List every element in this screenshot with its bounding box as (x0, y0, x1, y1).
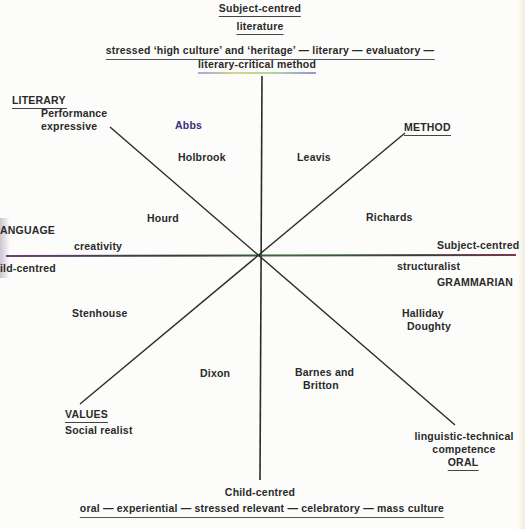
name-abbs: Abbs (175, 119, 202, 132)
name-leavis: Leavis (297, 151, 331, 164)
corner-desc-linguistic-technical: linguistic-technical (414, 430, 513, 443)
corner-label-method: METHOD (404, 121, 451, 136)
name-hourd: Hourd (147, 212, 179, 225)
top-method-label: literary-critical method (198, 58, 316, 74)
corner-desc-performance: Performance (41, 107, 107, 120)
name-doughty: Doughty (407, 320, 451, 333)
left-pole-child-centred: ild-centred (0, 262, 56, 275)
corner-label-oral: ORAL (448, 456, 479, 471)
corner-desc-social-realist: Social realist (65, 424, 133, 437)
name-barnes: Barnes and (295, 366, 354, 379)
corner-label-values: VALUES (65, 408, 108, 423)
diagonal-ne-sw (80, 133, 405, 404)
top-title-literature: literature (237, 20, 284, 35)
name-dixon: Dixon (200, 367, 230, 380)
curriculum-models-diagram: Subject-centred literature stressed ‘hig… (0, 0, 525, 529)
bottom-description: oral — experiential — stressed relevant … (80, 502, 444, 518)
right-desc-structuralist: structuralist (397, 260, 460, 273)
vertical-axis (260, 76, 262, 480)
left-label-language: ANGUAGE (0, 224, 55, 237)
name-richards: Richards (366, 211, 413, 224)
corner-desc-competence: competence (432, 443, 495, 456)
name-britton-line: Britton (303, 379, 339, 392)
diagonal-nw-se (110, 127, 455, 425)
name-holbrook: Holbrook (178, 151, 226, 164)
corner-desc-expressive: expressive (41, 120, 97, 133)
left-desc-creativity: creativity (74, 240, 122, 253)
top-title-subject-centred: Subject-centred (219, 2, 301, 17)
right-label-grammarian: GRAMMARIAN (437, 276, 513, 289)
right-pole-subject-centred: Subject-centred (437, 239, 519, 252)
page-edge-shadow (517, 0, 525, 529)
name-halliday: Halliday (402, 307, 444, 320)
horizontal-axis (6, 255, 516, 256)
bottom-title-child-centred: Child-centred (225, 486, 295, 499)
name-stenhouse: Stenhouse (72, 307, 127, 320)
